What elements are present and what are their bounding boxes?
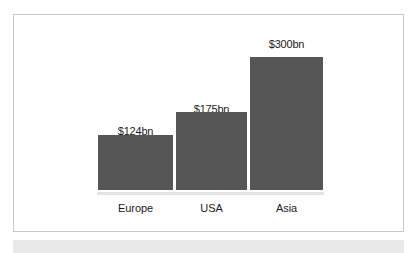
bar-usa [176, 112, 247, 190]
axis-baseline [97, 192, 324, 195]
plot-area: $124bn $175bn $300bn Europe USA Asia [14, 15, 403, 231]
bar-asia [250, 57, 323, 190]
bottom-strip [13, 240, 404, 253]
category-label-asia: Asia [250, 202, 323, 214]
bar-europe [98, 135, 173, 190]
chart-frame: $124bn $175bn $300bn Europe USA Asia [13, 14, 404, 232]
category-label-europe: Europe [98, 202, 173, 214]
bar-value-label-asia: $300bn [250, 38, 323, 50]
chart-canvas: $124bn $175bn $300bn Europe USA Asia [0, 0, 418, 253]
category-label-usa: USA [176, 202, 247, 214]
